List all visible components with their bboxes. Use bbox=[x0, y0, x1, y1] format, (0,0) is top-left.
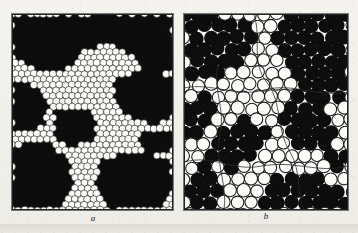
scan-smudge bbox=[0, 224, 358, 233]
panel-a-canvas bbox=[12, 14, 173, 210]
panel-b-coarse-grain-bubble-raft bbox=[184, 14, 348, 210]
panel-label-a: a bbox=[83, 213, 103, 223]
panel-label-b: b bbox=[256, 211, 276, 221]
panel-a-fine-grain-bubble-raft bbox=[12, 14, 173, 210]
panel-b-canvas bbox=[184, 14, 348, 210]
figure-root: a b bbox=[0, 0, 358, 233]
